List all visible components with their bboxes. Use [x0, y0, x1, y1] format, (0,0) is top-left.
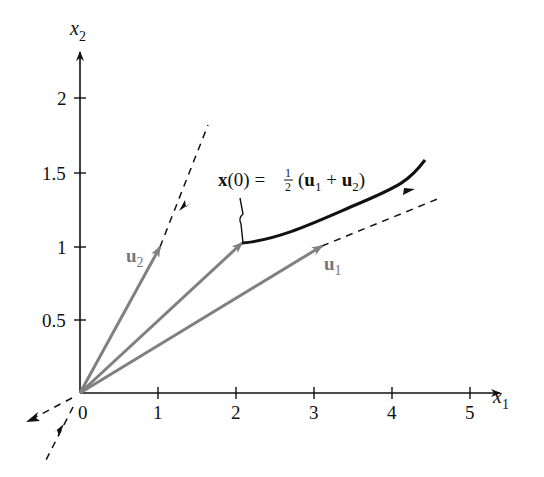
x-tick-2: 2	[231, 402, 241, 423]
y-tick-1: 1	[57, 237, 67, 258]
x-tick-1: 1	[153, 402, 163, 423]
u1-inflow-arrow-icon	[403, 188, 415, 195]
x-tick-5: 5	[465, 402, 475, 423]
x-tick-0: 0	[78, 402, 88, 423]
y-tick-2: 2	[57, 88, 67, 109]
u2-inflow-arrow-icon	[179, 200, 191, 211]
u2-eigenline	[46, 125, 208, 460]
x-axis	[80, 387, 500, 399]
x-axis-label: x1	[492, 385, 509, 412]
u1-outflow-arrow-icon	[26, 412, 40, 422]
u2-inflow-lower-arrow-icon	[53, 424, 64, 436]
phase-plane-diagram: 0 1 2 3 4 5 0.5 1 1.5 2 x1 x2 u2 u1 x(0)…	[0, 0, 544, 477]
u2-label: u2	[126, 245, 144, 270]
u2-vector	[80, 247, 160, 393]
y-axis	[74, 52, 86, 393]
y-tick-1.5: 1.5	[42, 163, 66, 184]
u1-vector	[80, 246, 322, 393]
x-tick-3: 3	[309, 402, 319, 423]
fraction-denominator: 2	[285, 180, 291, 194]
y-tick-0.5: 0.5	[42, 310, 66, 331]
x-tick-4: 4	[387, 402, 397, 423]
y-axis-label: x2	[69, 17, 86, 44]
u1-label: u1	[324, 253, 342, 278]
svg-text:x(0) =: x(0) =	[218, 169, 265, 191]
svg-text:(u1 + u2): (u1 + u2)	[298, 169, 365, 194]
x-tick-labels: 0 1 2 3 4 5	[78, 402, 475, 423]
y-tick-labels: 0.5 1 1.5 2	[42, 88, 67, 331]
annotation-leader	[240, 198, 243, 243]
half-sum-vector	[80, 243, 242, 393]
initial-condition-annotation: x(0) = 1 2 (u1 + u2)	[218, 166, 365, 194]
fraction-numerator: 1	[285, 166, 291, 180]
